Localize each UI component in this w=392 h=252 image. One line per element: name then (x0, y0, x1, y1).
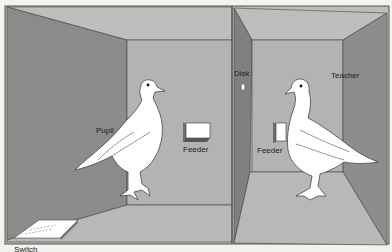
left-chamber (7, 6, 232, 244)
teacher-eye (300, 85, 303, 88)
label-disk: Disk (234, 70, 250, 78)
feeder-left (183, 122, 210, 142)
label-pupil: Pupil (96, 127, 114, 135)
label-teacher: Teacher (331, 72, 359, 80)
disk (241, 84, 245, 90)
label-feeder-left: Feeder (183, 146, 208, 154)
pigeon-experiment-diagram (0, 0, 392, 252)
feeder-right (273, 122, 286, 143)
label-feeder-right: Feeder (257, 147, 282, 155)
left-side-wall (7, 7, 127, 240)
pupil-eye (147, 84, 150, 87)
label-switch: Switch (14, 246, 38, 252)
right-chamber (234, 8, 387, 245)
